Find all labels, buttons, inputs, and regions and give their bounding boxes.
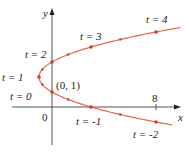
direction-marker-icon [119, 113, 121, 115]
label-t-3: t = 3 [80, 30, 102, 42]
curve-point [50, 60, 54, 64]
x-axis-arrow-icon [174, 105, 181, 110]
curve-point [37, 75, 41, 79]
curve-point [89, 105, 93, 109]
curve-point [50, 90, 54, 94]
parametric-curve [39, 28, 181, 126]
curve-point [89, 45, 93, 49]
parameter-points [37, 30, 158, 124]
origin-label: 0 [42, 111, 48, 123]
y-axis-label: y [42, 7, 48, 19]
label-t-neg1: t = -1 [76, 115, 101, 127]
direction-marker-icon [41, 68, 43, 70]
curve-point [154, 30, 158, 34]
direction-marker-icon [67, 98, 69, 100]
curve-point [154, 120, 158, 124]
label-t-neg2: t = -2 [133, 128, 159, 140]
label-t-2: t = 2 [25, 48, 47, 60]
point-label: (0, 1) [56, 79, 80, 92]
direction-marker-icon [119, 38, 121, 40]
parametric-plot: y x 0 8 (0, 1) t = -2 t = -1 t = 0 t = 1… [0, 0, 189, 154]
x-tick-label-8: 8 [152, 92, 158, 104]
direction-marker-icon [41, 83, 43, 85]
direction-marker-icon [67, 53, 69, 55]
label-t-1: t = 1 [2, 71, 23, 83]
x-axis-label: x [177, 111, 183, 123]
y-axis-arrow-icon [50, 8, 55, 15]
label-t-0: t = 0 [10, 90, 32, 102]
label-t-4: t = 4 [146, 13, 168, 25]
